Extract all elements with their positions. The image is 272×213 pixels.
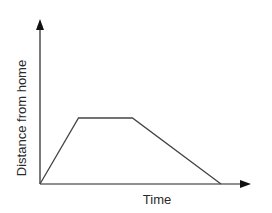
y-axis-label: Distance from home — [14, 60, 29, 176]
x-axis-arrow-icon — [240, 180, 251, 188]
distance-time-graph: Time Distance from home — [0, 0, 272, 213]
x-axis-label: Time — [143, 192, 171, 207]
journey-line — [40, 118, 221, 184]
y-axis-arrow-icon — [36, 19, 44, 30]
